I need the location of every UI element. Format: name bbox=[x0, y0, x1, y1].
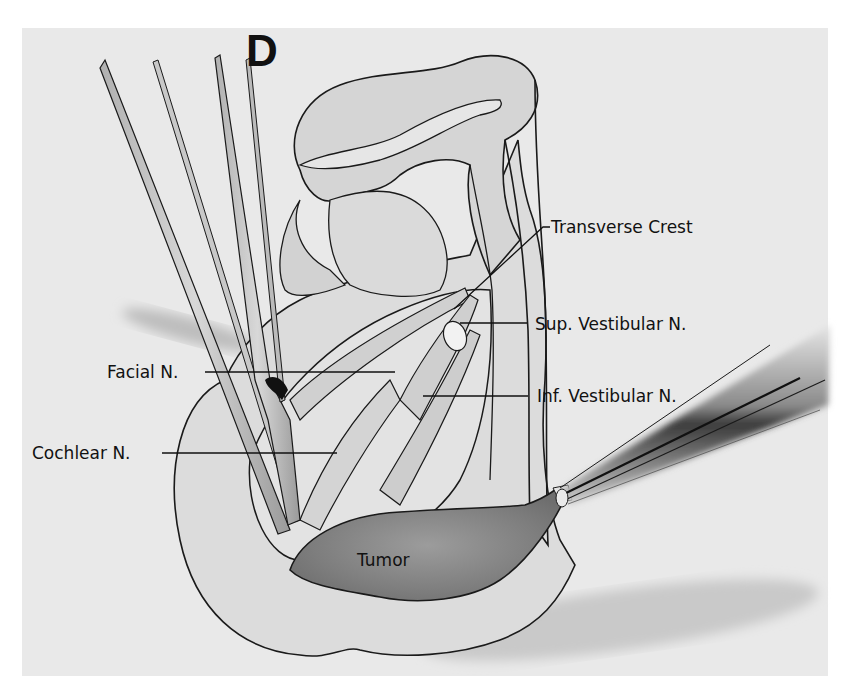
label-facial-nerve: Facial N. bbox=[107, 362, 178, 382]
label-cochlear-nerve: Cochlear N. bbox=[32, 443, 131, 463]
panel-letter: D bbox=[246, 26, 278, 75]
cochlear-bulge bbox=[329, 191, 447, 296]
label-transverse-crest: Transverse Crest bbox=[550, 217, 693, 237]
right-surgical-instrument bbox=[556, 325, 830, 507]
anatomical-illustration: D Transverse Crest Sup. Vestibular N. Fa… bbox=[0, 0, 842, 683]
label-tumor: Tumor bbox=[356, 550, 410, 570]
label-inferior-vestibular-nerve: Inf. Vestibular N. bbox=[537, 386, 677, 406]
label-superior-vestibular-nerve: Sup. Vestibular N. bbox=[535, 314, 686, 334]
illustration-drawing: D Transverse Crest Sup. Vestibular N. Fa… bbox=[0, 0, 842, 683]
